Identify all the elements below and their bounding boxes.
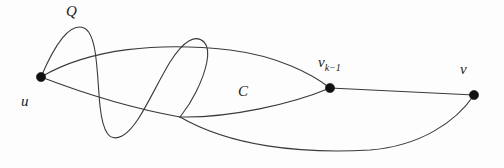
path-Q-wavy-curve bbox=[41, 27, 208, 138]
label-v-k-minus-1-subscript: k−1 bbox=[325, 62, 341, 73]
straight-edge-vk1-to-v bbox=[330, 88, 474, 95]
label-Q: Q bbox=[66, 4, 77, 19]
graph-canvas bbox=[0, 0, 504, 168]
upper-arc-u-to-vk1 bbox=[41, 47, 330, 88]
graph-diagram: Q u C vk−1 v bbox=[0, 0, 504, 168]
long-bottom-curve-branch-to-v bbox=[180, 95, 474, 151]
label-v: v bbox=[460, 62, 467, 77]
middle-arc-u-to-branch bbox=[41, 77, 180, 117]
edge-group bbox=[41, 27, 474, 151]
label-u: u bbox=[21, 94, 29, 109]
lower-arc-branch-to-vk1 bbox=[180, 88, 330, 117]
node-u bbox=[36, 72, 45, 81]
label-C: C bbox=[238, 84, 248, 99]
node-vk1 bbox=[325, 83, 334, 92]
node-group bbox=[36, 72, 478, 99]
label-v-k-minus-1-base: v bbox=[318, 54, 325, 70]
label-v-k-minus-1: vk−1 bbox=[318, 55, 341, 70]
node-v bbox=[469, 90, 478, 99]
